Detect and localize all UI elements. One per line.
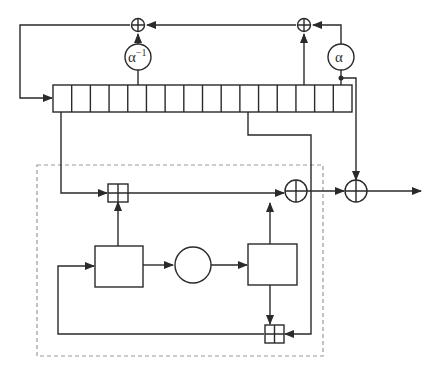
xor-fsm-output-icon [285, 180, 307, 202]
boxplus-top-icon [108, 184, 128, 202]
wire-boxplus-bottom-to-r1 [58, 266, 264, 334]
alpha-label: α [335, 49, 343, 65]
alpha-inverse-multiplier: α−1 [125, 44, 151, 70]
fsm-register-r1 [95, 246, 143, 287]
fsm-register-r2 [248, 244, 297, 285]
wire-tap-to-boxplus-top [61, 112, 107, 193]
wire-alpha-to-xor-right [313, 25, 341, 44]
fsm-sbox-circle [175, 247, 211, 283]
wire-tap-to-boxplus-bottom [248, 112, 311, 334]
boxplus-bottom-icon [265, 325, 284, 343]
lfsr-fsm-diagram: α−1 α [0, 0, 439, 375]
shift-register [53, 85, 352, 112]
xor-top-left-icon [132, 19, 145, 32]
xor-top-right-icon [298, 19, 311, 32]
alpha-multiplier: α [328, 44, 354, 70]
xor-keystream-icon [345, 180, 367, 202]
